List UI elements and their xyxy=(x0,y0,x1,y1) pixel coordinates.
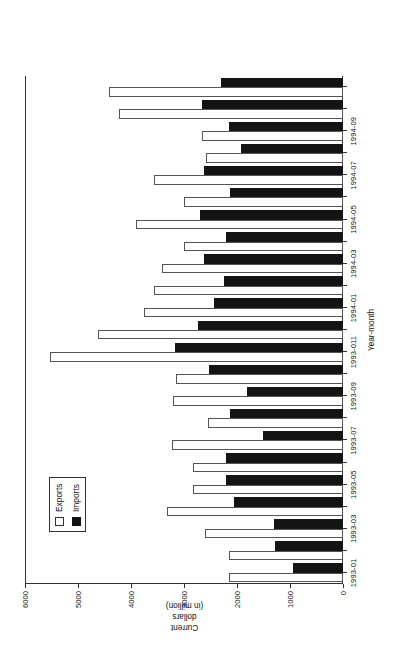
value-axis-title-line3: (in million) xyxy=(165,600,202,611)
bar-exports-1994-02 xyxy=(154,286,343,295)
category-axis-tick xyxy=(343,351,347,352)
bar-exports-1993-02 xyxy=(229,551,343,560)
value-axis-tick xyxy=(131,584,132,588)
bar-exports-1994-10 xyxy=(119,109,343,118)
category-axis-tick xyxy=(343,417,347,418)
bar-imports-1993-08 xyxy=(230,409,343,418)
legend-item-imports: Imports xyxy=(71,484,81,526)
chart-legend: Exports Imports xyxy=(49,477,86,532)
bar-exports-1994-06 xyxy=(184,198,343,207)
category-axis-tick xyxy=(343,373,347,374)
bar-exports-1993-06 xyxy=(193,463,343,472)
bar-exports-1993-03 xyxy=(205,529,343,538)
category-axis-tick xyxy=(343,241,347,242)
legend-swatch-imports-icon xyxy=(72,517,81,526)
bar-exports-1994-05 xyxy=(136,220,343,229)
value-axis-tick xyxy=(290,584,291,588)
bar-exports-1994-04 xyxy=(184,242,343,251)
category-axis-tick-label: 1993-011 xyxy=(349,336,358,368)
bar-imports-1993-12 xyxy=(198,321,343,330)
bar-exports-1994-03 xyxy=(162,264,343,273)
bar-exports-1993-07 xyxy=(172,440,343,449)
value-axis-tick xyxy=(25,584,26,588)
category-axis-title: Year-month xyxy=(367,76,376,584)
legend-item-exports: Exports xyxy=(54,484,64,526)
bar-exports-1993-10 xyxy=(176,374,343,383)
bar-imports-1993-05 xyxy=(226,475,343,484)
bar-exports-1993-09 xyxy=(173,396,343,405)
legend-label-exports: Exports xyxy=(54,484,64,512)
bar-imports-1993-06 xyxy=(226,453,343,462)
value-axis-tick-label: 0 xyxy=(339,591,348,595)
legend-swatch-exports-icon xyxy=(55,517,64,526)
category-axis-tick xyxy=(343,329,347,330)
category-axis-tick xyxy=(343,484,347,485)
category-axis-tick xyxy=(343,528,347,529)
bar-exports-1994-08 xyxy=(206,153,343,162)
bar-exports-1993-05 xyxy=(193,485,343,494)
bar-imports-1993-09 xyxy=(247,387,343,396)
bar-exports-1993-04 xyxy=(167,507,343,516)
bar-imports-1994-07 xyxy=(204,166,343,175)
bar-imports-1994-08 xyxy=(241,144,343,153)
category-axis-tick xyxy=(343,86,347,87)
value-axis-tick xyxy=(343,584,344,588)
bar-exports-1993-12 xyxy=(98,330,343,339)
bar-exports-1993-01 xyxy=(229,573,343,582)
bar-exports-1994-01 xyxy=(144,308,343,317)
category-axis-tick xyxy=(343,219,347,220)
bar-imports-1994-11 xyxy=(221,78,343,87)
category-axis-tick-label: 1993-03 xyxy=(349,515,358,544)
value-axis-tick xyxy=(78,584,79,588)
category-axis-tick-label: 1993-09 xyxy=(349,382,358,411)
value-axis-tick xyxy=(184,584,185,588)
bar-imports-1993-07 xyxy=(263,431,343,440)
bar-imports-1994-01 xyxy=(214,298,343,307)
bar-imports-1994-10 xyxy=(202,100,343,109)
category-axis-tick xyxy=(343,506,347,507)
bar-imports-1994-09 xyxy=(229,122,343,131)
category-axis-tick xyxy=(343,462,347,463)
bar-imports-1994-03 xyxy=(204,254,343,263)
bar-exports-1993-011 xyxy=(50,352,343,361)
bar-exports-1994-07 xyxy=(154,175,343,184)
category-axis-tick-label: 1994-09 xyxy=(349,117,358,146)
bar-imports-1993-10 xyxy=(209,365,343,374)
category-axis-tick xyxy=(343,263,347,264)
value-axis-title: Current dollars (in million) xyxy=(25,598,343,634)
bar-exports-1993-08 xyxy=(208,418,343,427)
category-axis: 1993-011993-031993-051993-071993-091993-… xyxy=(343,76,389,584)
bar-exports-1994-09 xyxy=(202,131,344,140)
legend-label-imports: Imports xyxy=(71,484,81,512)
bar-imports-1994-06 xyxy=(230,188,343,197)
category-axis-tick-label: 1993-07 xyxy=(349,426,358,455)
category-axis-tick xyxy=(343,174,347,175)
bar-exports-1994-11 xyxy=(109,87,343,96)
category-axis-tick-label: 1993-05 xyxy=(349,470,358,499)
chart-stage: 0100020003000400050006000 Current dollar… xyxy=(11,28,391,628)
category-axis-tick xyxy=(343,572,347,573)
value-axis-tick xyxy=(237,584,238,588)
category-axis-tick xyxy=(343,152,347,153)
category-axis-tick xyxy=(343,108,347,109)
category-axis-tick xyxy=(343,550,347,551)
category-axis-tick-label: 1994-03 xyxy=(349,249,358,278)
category-axis-tick xyxy=(343,307,347,308)
value-axis-title-line1: Current xyxy=(165,622,202,633)
chart-page: 0100020003000400050006000 Current dollar… xyxy=(0,0,402,656)
category-axis-tick-label: 1994-07 xyxy=(349,161,358,190)
bar-imports-1993-01 xyxy=(293,563,343,572)
category-axis-tick-label: 1993-01 xyxy=(349,559,358,588)
bar-imports-1994-02 xyxy=(224,276,343,285)
bar-imports-1993-04 xyxy=(234,497,343,506)
category-axis-tick-label: 1994-01 xyxy=(349,294,358,323)
category-axis-tick xyxy=(343,395,347,396)
bar-imports-1994-05 xyxy=(200,210,343,219)
category-axis-tick xyxy=(343,130,347,131)
category-axis-tick xyxy=(343,285,347,286)
value-axis-title-line2: dollars xyxy=(165,611,202,622)
bar-imports-1993-02 xyxy=(275,541,343,550)
category-axis-tick xyxy=(343,196,347,197)
bar-imports-1994-04 xyxy=(226,232,343,241)
bar-imports-1993-011 xyxy=(175,343,343,352)
